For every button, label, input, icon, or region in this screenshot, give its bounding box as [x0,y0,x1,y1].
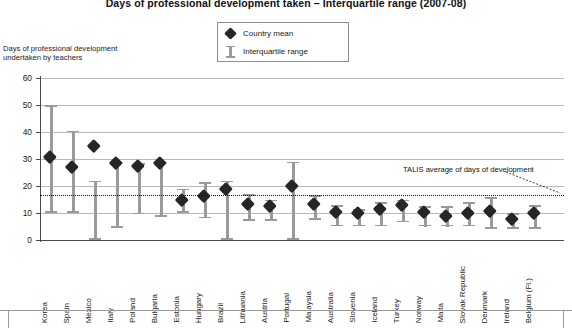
country-mean-marker [65,160,79,174]
x-axis-label-slot: Slovak Republic [458,245,480,323]
cap-bottom [529,227,541,229]
x-axis-label-slot: Lithuania [238,245,260,323]
data-column [194,78,216,240]
cap-bottom [397,221,409,223]
x-axis-tick-label: Korea [40,302,62,323]
x-axis-tick-label: Slovenia [348,292,370,323]
footer-rule [0,310,572,311]
x-axis-label-slot: Malta [436,245,458,323]
cap-top [463,202,475,204]
cap-bottom [243,219,255,221]
x-axis-label-slot: Spain [62,245,84,323]
legend-label-interquartile-range: Interquartile range [243,47,308,56]
country-mean-marker [131,159,145,173]
x-axis-tick-label: Australia [326,292,348,323]
cap-bottom [309,218,321,220]
country-mean-marker [439,209,453,223]
x-axis-tick-label: Malaysia [304,291,326,323]
legend-label-country-mean: Country mean [243,29,293,38]
cap-bottom [221,238,233,240]
cap-top [67,131,79,133]
x-axis-tick-label: Spain [62,303,84,323]
diamond-marker-icon [224,27,237,40]
talis-average-line [40,195,564,196]
cap-bottom [331,225,343,227]
data-column [524,78,546,240]
data-column [304,78,326,240]
cap-bottom [507,227,519,229]
legend-item-interquartile-range: Interquartile range [226,45,308,58]
chart-title: Days of professional development taken –… [0,0,572,9]
country-mean-marker [307,197,321,211]
x-axis-tick-label: Portugal [282,293,304,323]
chart-legend: Country mean Interquartile range [217,22,349,62]
data-column [84,78,106,240]
x-axis-label-slot: Turkey [392,245,414,323]
cap-top [221,181,233,183]
y-axis-caption: Days of professional development underta… [3,44,153,62]
y-axis-tick-label: 0 [0,235,32,245]
cap-top [177,189,189,191]
talis-average-annotation: TALIS average of days of development [403,165,534,174]
country-mean-marker [483,204,497,218]
country-mean-marker [461,206,475,220]
data-column [40,78,62,240]
data-column [238,78,260,240]
y-axis-tick-label: 40 [0,127,32,137]
plot-area [40,78,564,240]
x-axis-label-slot: Hungary [194,245,216,323]
data-column [106,78,128,240]
x-axis-tick-label: Hungary [194,293,216,323]
cap-bottom [463,225,475,227]
x-axis-labels: KoreaSpainMexicoItalyPolandBulgariaEston… [40,245,564,325]
x-axis-tick-label: Bulgaria [150,294,172,323]
country-mean-marker [219,182,233,196]
interquartile-range-bar [94,181,97,240]
cap-bottom [133,213,145,215]
x-axis-tick-label: Slovak Republic [458,266,480,323]
data-column [128,78,150,240]
cap-bottom [199,217,211,219]
cap-top [89,181,101,183]
data-column [172,78,194,240]
y-axis-tick-label: 30 [0,154,32,164]
cap-bottom [111,226,123,228]
country-mean-marker [329,205,343,219]
data-column [150,78,172,240]
x-axis-tick-label: Brazil [216,303,238,323]
x-axis-label-slot: Austria [260,245,282,323]
x-axis-label-slot: Belgium (Fl.) [524,245,546,323]
data-column [480,78,502,240]
cap-bottom [287,238,299,240]
cap-top [485,197,497,199]
cap-bottom [67,211,79,213]
x-axis-label-slot: Australia [326,245,348,323]
cap-top [441,206,453,208]
x-axis-label-slot: Malaysia [304,245,326,323]
country-mean-marker [373,202,387,216]
x-axis-label-slot: Bulgaria [150,245,172,323]
data-column [216,78,238,240]
y-axis-tick-label: 20 [0,181,32,191]
country-mean-marker [527,206,541,220]
y-axis-tick-label: 50 [0,100,32,110]
footer-tick-right [563,310,564,328]
data-column [458,78,480,240]
x-axis-label-slot: Ireland [502,245,524,323]
cap-bottom [485,227,497,229]
cap-bottom [177,211,189,213]
country-mean-marker [109,156,123,170]
cap-bottom [441,225,453,227]
cap-bottom [45,211,57,213]
data-column [436,78,458,240]
chart-root: Days of professional development taken –… [0,0,572,328]
x-axis-label-slot: Portugal [282,245,304,323]
data-column [392,78,414,240]
country-mean-marker [241,197,255,211]
cap-top [199,182,211,184]
footer-tick-left [8,310,9,328]
data-column [260,78,282,240]
x-axis-label-slot: Mexico [84,245,106,323]
x-axis-tick-label: Denmark [480,291,502,323]
y-axis-tick-label: 60 [0,73,32,83]
